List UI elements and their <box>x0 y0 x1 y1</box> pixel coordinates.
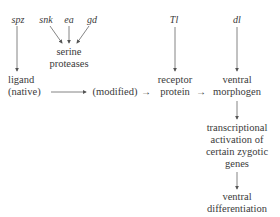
node-line: proteases <box>49 58 88 70</box>
node-line: receptor <box>158 74 192 86</box>
arrow-snk-to-proteases <box>50 26 62 43</box>
node-line: morphogen <box>213 86 261 98</box>
node-serine-proteases: serine proteases <box>49 46 88 70</box>
node-line: activation of <box>206 134 268 146</box>
arrow-gd-to-proteases <box>77 26 89 43</box>
node-ventral-morphogen: ventral morphogen <box>213 74 261 98</box>
node-line: transcriptional <box>206 122 268 134</box>
node-ventral-differentiation: ventral differentiation <box>207 191 267 215</box>
node-transcriptional-activation: transcriptional activation of certain zy… <box>206 122 268 170</box>
gene-label-dl: dl <box>233 14 241 26</box>
gene-label-gd: gd <box>87 14 97 26</box>
gene-label-spz: spz <box>12 14 25 26</box>
gene-label-tl: Tl <box>170 14 178 26</box>
node-line: genes <box>206 158 268 170</box>
node-line: (native) <box>8 86 41 98</box>
node-receptor-protein: receptor protein <box>158 74 192 98</box>
node-line: ventral <box>207 191 267 203</box>
node-line: differentiation <box>207 203 267 215</box>
arrow-receptor-to-morphogen: → <box>196 86 206 98</box>
gene-label-ea: ea <box>64 14 73 26</box>
arrow-modified-to-receptor: → <box>141 86 151 98</box>
node-modified: (modified) <box>93 86 138 98</box>
node-ligand-native: ligand (native) <box>8 74 41 98</box>
node-line: serine <box>49 46 88 58</box>
node-line: protein <box>158 86 192 98</box>
arrow-connectors <box>0 0 280 217</box>
gene-label-snk: snk <box>39 14 52 26</box>
node-line: certain zygotic <box>206 146 268 158</box>
node-line: ligand <box>8 74 41 86</box>
node-line: ventral <box>213 74 261 86</box>
